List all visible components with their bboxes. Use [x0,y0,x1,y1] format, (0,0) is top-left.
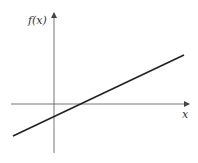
y-axis-label: f(x) [27,14,47,27]
function-plot: f(x) x [0,0,198,163]
function-line [13,55,184,136]
x-axis-label: x [182,108,189,121]
